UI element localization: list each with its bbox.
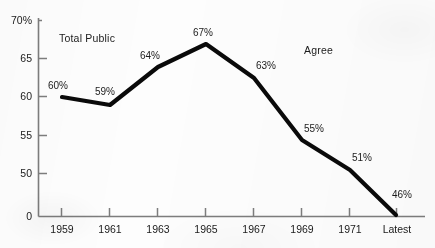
x-axis-label-1959: 1959: [39, 224, 85, 235]
annotation-agree: Agree: [304, 45, 333, 56]
x-axis-label-1971: 1971: [327, 224, 373, 235]
line-chart-figure: 70% 65 60 55 50 0 1959 1961 1963 1965 19…: [0, 0, 435, 248]
series-line-total-public: [62, 44, 396, 215]
y-axis-label-55: 55: [0, 130, 32, 141]
data-label-latest: 46%: [392, 190, 412, 200]
data-label-1971: 51%: [352, 153, 372, 163]
y-axis-label-50: 50: [0, 168, 32, 179]
x-axis-label-1963: 1963: [135, 224, 181, 235]
x-axis-label-latest: Latest: [374, 224, 420, 235]
annotation-total-public: Total Public: [59, 33, 115, 44]
x-axis-label-1961: 1961: [87, 224, 133, 235]
data-label-1967: 63%: [256, 61, 276, 71]
x-axis-ticks: [62, 208, 397, 217]
data-label-1959: 60%: [48, 81, 68, 91]
y-axis-label-0: 0: [0, 211, 32, 222]
data-label-1969: 55%: [304, 124, 324, 134]
data-label-1963: 64%: [140, 51, 160, 61]
y-axis-label-60: 60: [0, 91, 32, 102]
data-label-1965: 67%: [193, 28, 213, 38]
data-label-1961: 59%: [95, 87, 115, 97]
y-axis-ticks: [39, 21, 48, 174]
y-axis-label-65: 65: [0, 53, 32, 64]
x-axis-label-1967: 1967: [231, 224, 277, 235]
y-axis-label-70: 70%: [0, 15, 32, 26]
x-axis-label-1969: 1969: [279, 224, 325, 235]
x-axis-label-1965: 1965: [183, 224, 229, 235]
